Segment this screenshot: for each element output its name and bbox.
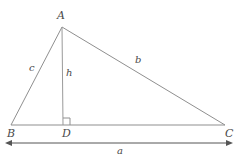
side-label-h: h — [66, 68, 72, 78]
altitude-h-line — [62, 27, 63, 125]
right-angle-icon — [63, 118, 70, 125]
side-c-line — [11, 27, 62, 125]
side-label-b: b — [135, 55, 141, 65]
side-label-c: c — [29, 63, 35, 73]
side-label-a: a — [117, 146, 123, 156]
vertex-label-b: B — [7, 128, 15, 139]
vertex-label-a: A — [57, 10, 65, 21]
vertex-label-d: D — [62, 128, 71, 139]
vertex-label-c: C — [225, 128, 233, 139]
geometry-diagram: A B C D c h b a — [0, 0, 241, 161]
side-b-line — [62, 27, 225, 125]
triangle-figure-svg — [0, 0, 241, 161]
